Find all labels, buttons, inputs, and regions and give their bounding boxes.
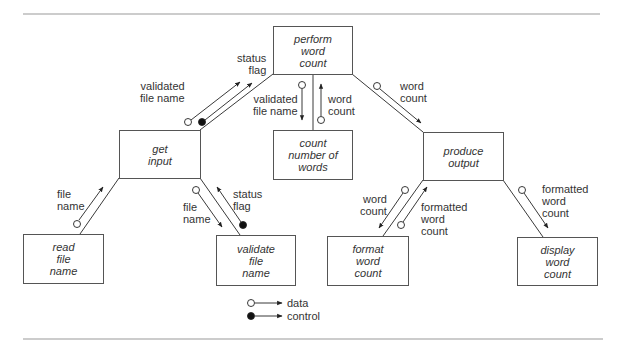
module-label: count: [355, 267, 382, 279]
module-validate-file-name: validate file name: [216, 235, 296, 286]
control-couple-icon: [240, 222, 247, 229]
module-label: perform: [294, 33, 332, 45]
legend-data-icon: [248, 300, 255, 307]
module-label: get: [152, 143, 167, 155]
module-label: name: [242, 267, 270, 279]
module-label: word: [301, 45, 325, 57]
legend-data-label: data: [287, 297, 308, 309]
module-count-number-of-words: count number of words: [273, 130, 353, 180]
data-couple-icon: [74, 221, 81, 228]
module-label: file: [56, 253, 70, 265]
module-format-word-count: format word count: [327, 236, 409, 286]
module-label: output: [448, 157, 479, 169]
module-label: read: [52, 241, 74, 253]
couple-arrow: [205, 83, 252, 120]
module-label: input: [148, 155, 172, 167]
data-couple-icon: [398, 222, 405, 229]
couple-label-word-count-up: word count: [328, 93, 355, 117]
data-couple-icon: [185, 119, 192, 126]
data-couple-icon: [374, 83, 381, 90]
module-label: count: [300, 57, 327, 69]
legend-control-label: control: [287, 310, 320, 322]
couple-label-status-flag-up: status flag: [237, 52, 266, 76]
data-couple-icon: [402, 187, 409, 194]
couple-label-validated-file-name-up: validated file name: [140, 80, 185, 104]
couple-label-validated-file-name-down: validated file name: [253, 93, 298, 117]
couple-arrow: [191, 82, 240, 120]
data-couple-icon: [318, 117, 325, 124]
module-label: count: [544, 268, 571, 280]
module-get-input: get input: [119, 130, 201, 179]
module-label: produce: [444, 145, 484, 157]
control-couple-icon: [199, 119, 206, 126]
data-couple-icon: [519, 187, 526, 194]
module-label: word: [546, 256, 570, 268]
data-couple-icon: [299, 82, 306, 89]
couple-label-status-flag-validate: status flag: [233, 188, 262, 212]
legend-control-icon: [248, 313, 255, 320]
couple-label-formatted-word-count-display: formatted word count: [542, 183, 588, 219]
couple-label-file-name-validate: file name: [183, 201, 211, 225]
data-couple-icon: [193, 187, 200, 194]
module-produce-output: produce output: [423, 132, 504, 181]
couple-label-formatted-word-count-up: formatted word count: [421, 201, 467, 237]
module-label: validate: [237, 243, 275, 255]
module-label: words: [298, 161, 327, 173]
couple-label-file-name-read: file name: [57, 188, 85, 212]
module-label: file: [249, 255, 263, 267]
module-label: count: [300, 137, 327, 149]
module-label: format: [352, 243, 383, 255]
module-label: name: [50, 265, 78, 277]
link-get-read: [80, 178, 119, 234]
module-label: number of: [288, 149, 338, 161]
module-read-file-name: read file name: [23, 234, 104, 284]
module-display-word-count: display word count: [517, 237, 598, 286]
module-label: display: [540, 244, 574, 256]
module-label: word: [356, 255, 380, 267]
couple-label-word-count-right: word count: [400, 80, 427, 104]
couple-label-word-count-format: word count: [360, 193, 387, 217]
module-perform-word-count: perform word count: [273, 26, 353, 75]
